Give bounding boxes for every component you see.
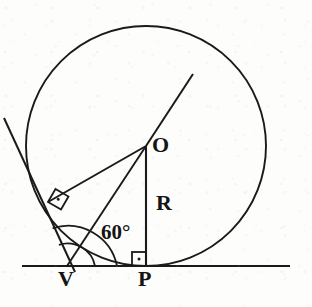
label-vertex-V: V	[58, 268, 74, 290]
label-point-P: P	[138, 268, 151, 290]
geometry-figure: O R V P 60°	[0, 0, 312, 307]
segment-OV	[67, 146, 146, 266]
label-center-O: O	[152, 134, 169, 156]
label-radius-R: R	[156, 192, 172, 214]
label-angle-60: 60°	[101, 222, 130, 243]
right-angle-at-P	[132, 252, 146, 266]
